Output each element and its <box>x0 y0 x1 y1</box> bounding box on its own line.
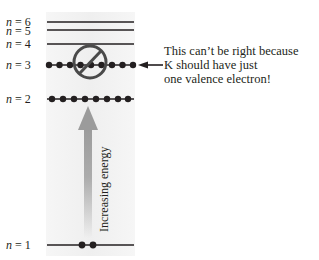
annotation-line-1: This can’t be right because <box>164 44 298 58</box>
annotation-arrow-icon <box>138 62 163 69</box>
annotation-line-2: K should have just <box>164 58 298 72</box>
increasing-energy-arrow-icon <box>78 106 98 238</box>
annotation-line-3: one valence electron! <box>164 72 298 86</box>
annotation-text: This can’t be right because K should hav… <box>164 44 298 86</box>
energy-level-graphic <box>0 0 319 260</box>
increasing-energy-label: Increasing energy <box>97 147 112 232</box>
